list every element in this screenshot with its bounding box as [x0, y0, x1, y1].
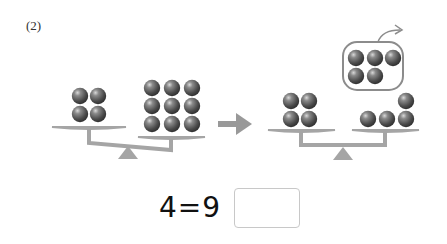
scale-right-pan — [138, 137, 205, 139]
before-left-pan-balls — [72, 88, 106, 122]
ball — [348, 68, 364, 84]
ball — [164, 80, 180, 96]
ball — [72, 88, 88, 104]
scale-left-pan — [52, 127, 126, 129]
equation: 4=9 — [159, 190, 221, 226]
ball — [301, 93, 317, 109]
scale-fulcrum — [333, 147, 353, 160]
scale-before — [52, 127, 205, 159]
remove-arrow-icon — [378, 30, 400, 42]
ball — [164, 116, 180, 132]
scale-beam — [301, 131, 385, 145]
ball — [164, 98, 180, 114]
ball — [385, 50, 401, 66]
ball — [360, 111, 376, 127]
ball — [184, 98, 200, 114]
ball — [144, 80, 160, 96]
ball — [283, 93, 299, 109]
scale-left-pan — [268, 130, 335, 132]
ball — [301, 111, 317, 127]
ball — [379, 111, 395, 127]
ball — [72, 106, 88, 122]
ball — [398, 93, 414, 109]
ball — [398, 111, 414, 127]
before-right-pan-balls — [144, 80, 200, 132]
after-right-pan-balls — [360, 93, 414, 127]
ball — [90, 88, 106, 104]
after-left-pan-balls — [283, 93, 317, 127]
arrow-right-icon — [218, 113, 252, 135]
ball — [348, 50, 364, 66]
ball — [283, 111, 299, 127]
ball — [367, 68, 383, 84]
ball — [367, 50, 383, 66]
ball — [144, 98, 160, 114]
ball — [144, 116, 160, 132]
balance-scene — [0, 0, 447, 180]
ball — [184, 80, 200, 96]
scale-after — [268, 130, 419, 160]
ball — [184, 116, 200, 132]
answer-input-box[interactable] — [234, 188, 300, 228]
ball — [90, 106, 106, 122]
scale-right-pan — [352, 130, 419, 132]
removed-balls — [348, 50, 401, 84]
